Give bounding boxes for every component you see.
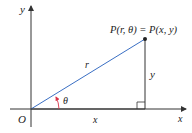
point-label: P(r, θ) = P(x, y): [109, 24, 178, 36]
radius-line: [31, 39, 145, 109]
y-axis-label: y: [19, 3, 25, 15]
horizontal-leg-label: x: [92, 114, 98, 125]
origin-label: O: [18, 113, 26, 125]
angle-arc: [56, 97, 59, 109]
vertical-leg-label: y: [149, 68, 155, 80]
x-axis-label: x: [177, 113, 183, 124]
radius-label: r: [85, 59, 89, 70]
angle-label: θ: [63, 95, 68, 106]
point-p: [143, 37, 147, 41]
polar-coordinates-diagram: y x O P(r, θ) = P(x, y) r θ x y: [0, 0, 192, 133]
right-angle-marker: [137, 102, 145, 109]
